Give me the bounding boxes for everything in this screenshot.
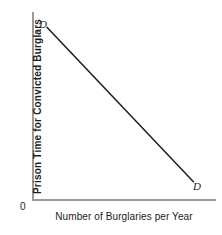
curve-label-bottom: D [193,180,201,192]
demand-curve-line [47,27,194,182]
y-axis-title: Prison Time for Convicted Burglars [32,13,43,201]
origin-label: 0 [20,201,26,212]
demand-curve-figure: D D Prison Time for Convicted Burglars N… [0,0,222,235]
x-axis-title: Number of Burglaries per Year [32,211,216,222]
